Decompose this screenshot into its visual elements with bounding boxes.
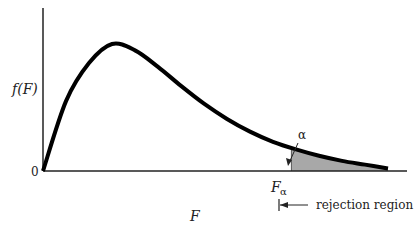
critical-value-label: F α (270, 179, 287, 197)
x-axis-label: F (189, 208, 201, 224)
rejection-region-label: rejection region (316, 198, 413, 212)
tail-area-label: α (298, 128, 306, 142)
y-axis-label: f(F) (11, 81, 38, 97)
critical-value-subscript: α (280, 186, 287, 197)
density-curve (43, 43, 388, 171)
f-distribution-diagram: f(F) 0 F F α α rejection region (0, 0, 418, 237)
rejection-region-arrow (279, 199, 308, 211)
origin-label: 0 (31, 165, 39, 179)
